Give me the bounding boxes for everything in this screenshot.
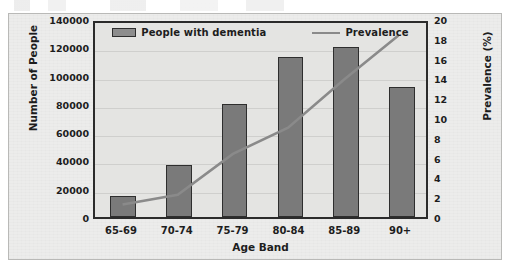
line-series-prevalence: [95, 23, 426, 217]
x-tick-65-69: 65-69: [93, 226, 149, 236]
x-tick-80-84: 80-84: [261, 226, 317, 236]
y-right-tick-14: 14: [434, 75, 447, 85]
y-left-tick-120000: 120000: [49, 44, 89, 54]
y-left-tick-60000: 60000: [56, 129, 89, 139]
y-axis-left-ticks: 020000400006000080000100000120000140000: [33, 21, 89, 219]
scan-artifact-strip: [14, 0, 284, 11]
x-tick-90+: 90+: [372, 226, 428, 236]
x-axis-title: Age Band: [93, 241, 428, 253]
y-left-tick-20000: 20000: [56, 186, 89, 196]
prevalence-line-svg: [95, 23, 426, 217]
y-right-tick-16: 16: [434, 56, 447, 66]
y-right-tick-2: 2: [434, 194, 441, 204]
x-tick-85-89: 85-89: [316, 226, 372, 236]
y-right-tick-8: 8: [434, 135, 441, 145]
y-right-tick-6: 6: [434, 155, 441, 165]
y-left-tick-40000: 40000: [56, 157, 89, 167]
chart-figure: Number of People Prevalence (%) 02000040…: [8, 13, 502, 260]
y-left-tick-100000: 100000: [49, 73, 89, 83]
y-right-tick-18: 18: [434, 36, 447, 46]
y-left-tick-140000: 140000: [49, 16, 89, 26]
y-right-tick-4: 4: [434, 174, 441, 184]
plot-area: People with dementia Prevalence: [93, 21, 428, 219]
x-tick-75-79: 75-79: [205, 226, 261, 236]
y-right-tick-10: 10: [434, 115, 447, 125]
y-right-tick-12: 12: [434, 95, 447, 105]
x-tick-70-74: 70-74: [149, 226, 205, 236]
x-axis-ticks: 65-6970-7475-7980-8485-8990+: [93, 226, 428, 240]
y-axis-right-ticks: 02468101214161820: [434, 21, 490, 219]
y-right-tick-0: 0: [434, 214, 441, 224]
y-right-tick-20: 20: [434, 16, 447, 26]
y-left-tick-0: 0: [82, 214, 89, 224]
screenshot-root: Number of People Prevalence (%) 02000040…: [0, 0, 510, 272]
y-left-tick-80000: 80000: [56, 101, 89, 111]
